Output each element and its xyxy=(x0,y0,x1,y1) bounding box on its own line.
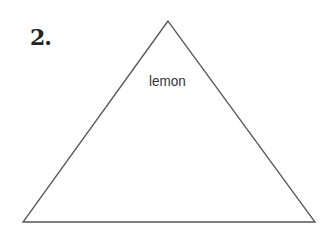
triangle-label: lemon xyxy=(149,72,186,89)
triangle-shape xyxy=(23,21,315,222)
problem-number: 2. xyxy=(30,24,51,50)
